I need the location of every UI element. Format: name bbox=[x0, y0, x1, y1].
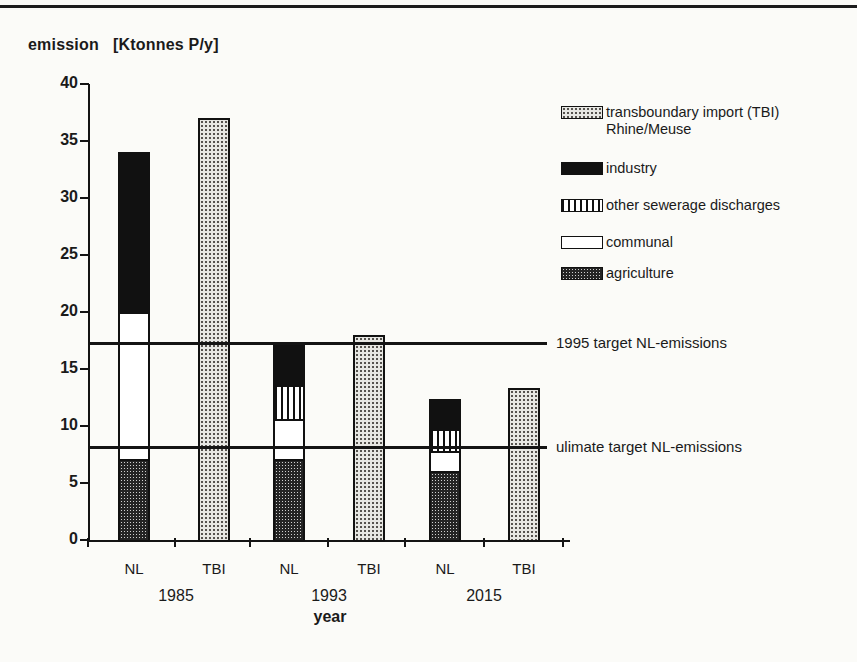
y-tick bbox=[80, 197, 89, 199]
bar-label-nl-2: NL bbox=[279, 560, 298, 577]
y-tick-label: 20 bbox=[32, 302, 78, 320]
year-label-2015: 2015 bbox=[466, 587, 502, 605]
target-line-1 bbox=[88, 446, 547, 449]
y-tick-label: 0 bbox=[32, 530, 78, 548]
bar-nl-1993 bbox=[273, 343, 305, 542]
legend-item-vertical-stripes: other sewerage discharges bbox=[561, 197, 780, 214]
legend-swatch-vertical-stripes bbox=[561, 199, 603, 212]
x-tick bbox=[174, 538, 176, 547]
year-label-1993: 1993 bbox=[311, 587, 347, 605]
bar-segment-light-stipple bbox=[200, 120, 228, 540]
bar-segment-solid-black bbox=[275, 345, 303, 385]
y-tick bbox=[80, 254, 89, 256]
chart-title: emission[Ktonnes P/y] bbox=[28, 36, 219, 54]
x-tick bbox=[562, 538, 564, 547]
legend-swatch-solid-black bbox=[561, 162, 603, 175]
bar-tbi-1985 bbox=[198, 118, 230, 542]
bar-segment-white bbox=[431, 451, 459, 471]
page-container: emission[Ktonnes P/y] 051015202530354019… bbox=[0, 0, 857, 662]
bar-segment-white bbox=[120, 312, 148, 460]
bar-label-tbi-3: TBI bbox=[357, 560, 380, 577]
bar-label-tbi-1: TBI bbox=[202, 560, 225, 577]
bar-label-nl-0: NL bbox=[124, 560, 143, 577]
bar-segment-vertical-stripes bbox=[275, 385, 303, 419]
target-line-0 bbox=[88, 342, 547, 345]
bar-segment-dark-stipple bbox=[431, 471, 459, 540]
legend-label: industry bbox=[606, 160, 657, 177]
legend-swatch-light-stipple bbox=[561, 106, 603, 119]
chart-title-units: [Ktonnes P/y] bbox=[113, 36, 219, 53]
bar-segment-light-stipple bbox=[355, 337, 383, 540]
y-tick-label: 30 bbox=[32, 188, 78, 206]
x-axis-title: year bbox=[314, 608, 347, 626]
legend-item-light-stipple: transboundary import (TBI)Rhine/Meuse bbox=[561, 104, 779, 138]
year-label-1985: 1985 bbox=[158, 587, 194, 605]
y-tick-label: 15 bbox=[32, 359, 78, 377]
y-tick bbox=[80, 311, 89, 313]
y-tick bbox=[80, 425, 89, 427]
legend-item-dark-stipple: agriculture bbox=[561, 265, 674, 282]
bar-tbi-2015 bbox=[508, 388, 540, 542]
x-tick bbox=[327, 538, 329, 547]
bar-label-tbi-5: TBI bbox=[512, 560, 535, 577]
bar-segment-dark-stipple bbox=[275, 459, 303, 540]
bar-tbi-1993 bbox=[353, 335, 385, 542]
bar-segment-light-stipple bbox=[510, 390, 538, 540]
legend-label: communal bbox=[606, 234, 673, 251]
legend-swatch-white bbox=[561, 236, 603, 249]
x-tick bbox=[87, 538, 89, 547]
legend-item-solid-black: industry bbox=[561, 160, 657, 177]
y-tick-label: 5 bbox=[32, 473, 78, 491]
y-tick-label: 25 bbox=[32, 245, 78, 263]
legend-label: other sewerage discharges bbox=[606, 197, 780, 214]
y-tick bbox=[80, 482, 89, 484]
legend-item-white: communal bbox=[561, 234, 673, 251]
bar-nl-1985 bbox=[118, 152, 150, 542]
target-line-label-1: ulimate target NL-emissions bbox=[556, 438, 742, 455]
chart-title-word: emission bbox=[28, 36, 99, 53]
bar-segment-white bbox=[275, 419, 303, 459]
y-tick-label: 10 bbox=[32, 416, 78, 434]
x-axis-line bbox=[88, 540, 570, 542]
y-tick-label: 40 bbox=[32, 74, 78, 92]
x-tick bbox=[404, 538, 406, 547]
y-tick-label: 35 bbox=[32, 131, 78, 149]
top-rule bbox=[0, 5, 857, 8]
bar-label-nl-4: NL bbox=[435, 560, 454, 577]
bar-nl-2015 bbox=[429, 399, 461, 542]
legend-swatch-dark-stipple bbox=[561, 267, 603, 280]
x-tick bbox=[249, 538, 251, 547]
legend-label-line2: Rhine/Meuse bbox=[606, 121, 779, 138]
legend-label: transboundary import (TBI)Rhine/Meuse bbox=[606, 104, 779, 138]
y-tick bbox=[80, 83, 89, 85]
bar-segment-dark-stipple bbox=[120, 459, 148, 540]
y-tick bbox=[80, 140, 89, 142]
bar-segment-solid-black bbox=[431, 401, 459, 429]
target-line-label-0: 1995 target NL-emissions bbox=[556, 334, 727, 351]
y-tick bbox=[80, 368, 89, 370]
x-tick bbox=[483, 538, 485, 547]
bar-segment-solid-black bbox=[120, 154, 148, 311]
legend-label: agriculture bbox=[606, 265, 674, 282]
